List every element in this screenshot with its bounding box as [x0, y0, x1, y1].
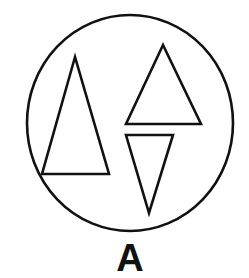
figure-label: A — [0, 238, 249, 278]
inverted-triangle — [126, 135, 173, 213]
figure-a: A — [0, 0, 249, 278]
tall-triangle — [42, 57, 109, 174]
upper-triangle — [126, 45, 201, 124]
